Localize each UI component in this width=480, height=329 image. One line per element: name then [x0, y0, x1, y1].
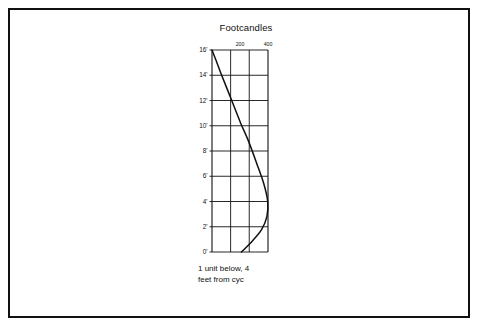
y-axis-tick-label: 6' [203, 172, 208, 179]
y-axis-tick-label: 0' [203, 248, 208, 255]
chart-title: Footcandles [186, 22, 306, 33]
x-axis-tick-labels: 200400 [236, 41, 273, 47]
y-axis-tick-label: 8' [203, 147, 208, 154]
caption-line-1: 1 unit below, 4 [198, 264, 306, 275]
plot-area: 200400 0'2'4'6'8'10'12'14'16' [186, 38, 306, 260]
figure-footcandles: Footcandles 200400 0'2'4'6'8'10'12'14'16… [186, 20, 306, 296]
y-axis-tick-label: 4' [203, 198, 208, 205]
page-root: Footcandles 200400 0'2'4'6'8'10'12'14'16… [0, 0, 480, 329]
caption-line-2: feet from cyc [198, 275, 306, 286]
x-axis-tick-label: 200 [236, 41, 245, 47]
y-axis-tick-labels: 0'2'4'6'8'10'12'14'16' [199, 46, 207, 255]
y-axis-tick-label: 16' [199, 46, 207, 53]
y-axis-tick-label: 12' [199, 97, 207, 104]
figure-caption: 1 unit below, 4 feet from cyc [198, 264, 306, 285]
y-axis-tick-label: 2' [203, 223, 208, 230]
x-axis-tick-label: 400 [264, 41, 273, 47]
y-axis-tick-label: 14' [199, 71, 207, 78]
y-axis-tick-label: 10' [199, 122, 207, 129]
grid-horizontal-lines [212, 50, 268, 252]
footcandles-line-chart: 200400 0'2'4'6'8'10'12'14'16' [186, 38, 306, 260]
